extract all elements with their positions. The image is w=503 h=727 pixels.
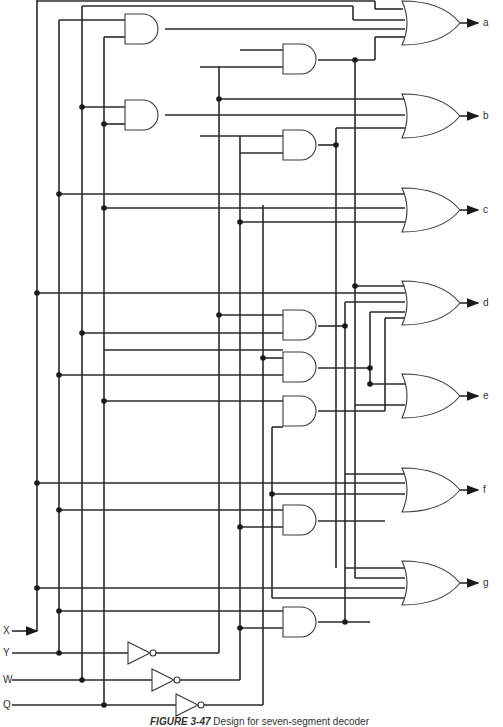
output-arrows — [460, 23, 478, 583]
input-lines — [12, 631, 176, 705]
output-label-g: g — [483, 577, 489, 588]
input-label-w: W — [3, 674, 13, 685]
output-label-c: c — [483, 204, 488, 215]
input-labels: X Y W Q — [3, 625, 13, 710]
caption-text: Design for seven-segment decoder — [213, 716, 369, 727]
or-gates — [402, 1, 460, 605]
input-label-y: Y — [3, 647, 10, 658]
output-labels: a b c d e f g — [483, 17, 489, 588]
and-gates — [125, 14, 316, 637]
output-label-b: b — [483, 110, 489, 121]
figure-caption: FIGURE 3-47 Design for seven-segment dec… — [150, 716, 369, 727]
output-label-d: d — [483, 297, 489, 308]
output-label-f: f — [483, 484, 486, 495]
input-buses — [37, 0, 403, 705]
output-label-e: e — [483, 390, 489, 401]
input-label-x: X — [3, 625, 10, 636]
input-label-q: Q — [3, 699, 11, 710]
caption-label: FIGURE 3-47 — [150, 716, 211, 727]
logic-circuit-diagram: a b c d e f g X Y W Q — [0, 0, 503, 727]
output-label-a: a — [483, 17, 489, 28]
